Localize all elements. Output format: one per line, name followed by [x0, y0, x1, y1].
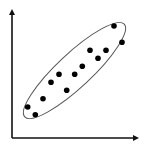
data-point [119, 40, 125, 46]
data-point [103, 48, 109, 54]
data-point [111, 23, 117, 29]
data-point [72, 72, 78, 78]
data-point [33, 112, 39, 118]
cluster-ellipse [13, 12, 136, 130]
data-point [25, 104, 31, 110]
data-point [64, 88, 70, 94]
cluster-ellipse-outline [13, 12, 136, 130]
data-point [95, 56, 101, 62]
data-point [87, 48, 93, 54]
data-points [25, 23, 125, 117]
data-point [80, 64, 86, 70]
scatter-diagram [0, 0, 146, 146]
data-point [56, 72, 62, 78]
data-point [48, 80, 54, 86]
data-point [40, 96, 46, 102]
